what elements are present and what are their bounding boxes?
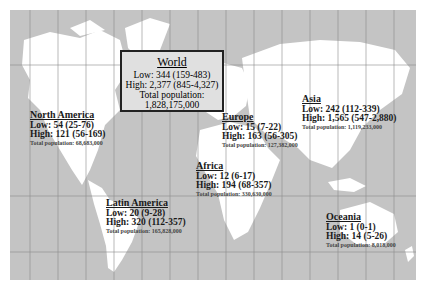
region-title: Latin America [106,198,186,209]
world-title: World [122,55,222,70]
region-pop: Total population: 330,630,000 [196,191,272,197]
region-high: High: 1,565 (547-2,880) [302,114,396,124]
region-pop: Total population: 1,119,233,000 [302,124,396,130]
region-high: High: 194 (68-357) [196,181,272,191]
region-title: Oceania [326,212,396,223]
region-asia: Asia Low: 242 (112-339) High: 1,565 (547… [302,94,396,131]
region-high: High: 320 (112-357) [106,218,186,228]
region-north-america: North America Low: 54 (25-76) High: 121 … [30,110,105,147]
region-latin-america: Latin America Low: 20 (9-28) High: 320 (… [106,198,186,235]
region-europe: Europe Low: 15 (7-22) High: 163 (56-305)… [222,112,298,149]
region-africa: Africa Low: 12 (6-17) High: 194 (68-357)… [196,161,272,198]
region-oceania: Oceania Low: 1 (0-1) High: 14 (5-26) Tot… [326,212,396,249]
world-summary-box: World Low: 344 (159-483) High: 2,377 (84… [120,50,224,112]
world-map: World Low: 344 (159-483) High: 2,377 (84… [10,10,416,280]
world-high: High: 2,377 (845-4,327) [122,80,222,90]
region-title: North America [30,110,105,121]
region-title: Europe [222,112,298,123]
region-high: High: 163 (56-305) [222,132,298,142]
world-low: Low: 344 (159-483) [122,70,222,80]
region-pop: Total population: 165,828,000 [106,228,186,234]
world-pop-value: 1,828,175,000 [122,100,222,110]
region-high: High: 14 (5-26) [326,232,396,242]
region-title: Asia [302,94,396,105]
region-high: High: 121 (56-169) [30,130,105,140]
region-pop: Total population: 8,018,000 [326,242,396,248]
region-pop: Total population: 68,683,000 [30,140,105,146]
world-pop-label: Total population: [122,90,222,100]
region-title: Africa [196,161,272,172]
region-pop: Total population: 127,382,000 [222,142,298,148]
